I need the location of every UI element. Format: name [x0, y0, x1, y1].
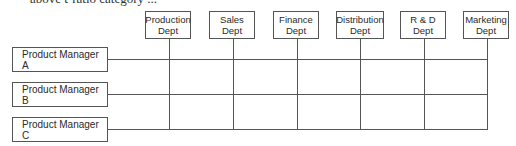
- dept-box-distribution: Distribution Dept: [336, 11, 384, 39]
- dept-box-finance: Finance Dept: [273, 11, 319, 39]
- pm-line-b: [107, 94, 488, 95]
- cutoff-caption-text: above t-ratio category ...: [30, 0, 157, 7]
- pm-box-b: Product Manager B: [12, 82, 108, 107]
- dept-line-sales: [233, 39, 234, 129]
- dept-box-marketing: Marketing Dept: [463, 11, 509, 39]
- dept-line-finance: [297, 39, 298, 129]
- dept-line-rnd: [424, 39, 425, 129]
- dept-label: Finance Dept: [279, 14, 313, 36]
- dept-box-sales: Sales Dept: [209, 11, 255, 39]
- pm-box-a: Product Manager A: [12, 47, 108, 72]
- pm-label: Product Manager C: [22, 119, 107, 141]
- dept-line-production: [169, 39, 170, 129]
- pm-label: Product Manager A: [22, 49, 107, 71]
- dept-label: R & D Dept: [410, 14, 435, 36]
- pm-line-c: [107, 129, 488, 130]
- dept-box-production: Production Dept: [145, 11, 191, 39]
- pm-box-c: Product Manager C: [12, 117, 108, 142]
- pm-label: Product Manager B: [22, 84, 107, 106]
- dept-label: Production Dept: [145, 14, 190, 36]
- dept-label: Marketing Dept: [465, 14, 507, 36]
- dept-label: Sales Dept: [220, 14, 244, 36]
- dept-line-distribution: [360, 39, 361, 129]
- pm-line-a: [107, 59, 488, 60]
- dept-line-marketing: [487, 39, 488, 129]
- dept-label: Distribution Dept: [336, 14, 384, 36]
- dept-box-rnd: R & D Dept: [400, 11, 446, 39]
